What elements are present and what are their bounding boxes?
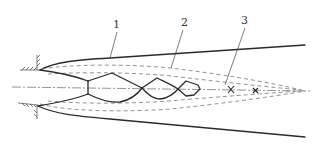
label-2: 2 [181, 17, 188, 28]
axis-x-marker-1 [228, 86, 234, 93]
jet-boundary-bottom [38, 94, 88, 106]
label-1: 1 [113, 19, 120, 30]
leader-line-2 [171, 30, 183, 68]
label-3: 3 [241, 15, 248, 26]
nozzle-wall-top [20, 55, 40, 70]
dashed-boundary-inner-top [48, 73, 300, 90]
jet-boundary-top [40, 70, 88, 81]
nozzle-wall-bottom [18, 103, 38, 119]
outer-boundary-top [40, 45, 305, 70]
leader-line-3 [225, 28, 245, 85]
leader-line-1 [110, 32, 117, 58]
jet-diagram [0, 0, 329, 148]
centerline [12, 87, 312, 91]
outer-boundary-bottom [38, 106, 305, 137]
